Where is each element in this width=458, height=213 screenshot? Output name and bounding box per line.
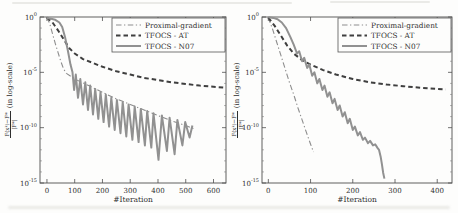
scan-artifact [12,2,292,4]
x-tick-label: 0 [266,187,270,195]
scan-artifact [8,206,450,209]
x-axis-label: #Iteration [337,195,377,204]
legend-label: TFOCS - N07 [145,42,195,51]
y-tick-label: 10-15 [242,177,259,188]
x-tick-label: 200 [96,187,109,195]
legend-label: TFOCS - N07 [371,42,421,51]
x-tick-label: 300 [388,187,401,195]
right-chart: 010020030040010010-510-1010-15#Iteration… [229,0,458,213]
legend-label: TFOCS - AT [145,31,188,40]
x-axis-label: #Iteration [113,195,153,204]
x-tick-label: 100 [68,187,81,195]
y-tick-label: 10-10 [20,122,37,133]
y-tick-label: 10-10 [242,122,259,133]
x-tick-label: 400 [151,187,164,195]
figure: F(xᵏ)−F*|F*|(in log-scale) 0100200300400… [0,0,458,213]
x-tick-label: 0 [45,187,49,195]
left-chart: 010020030040050060010010-510-1010-15#Ite… [0,0,229,213]
y-tick-label: 10-5 [23,66,37,77]
legend-label: TFOCS - AT [371,31,414,40]
x-tick-label: 100 [304,187,317,195]
scan-artifact [330,1,430,3]
x-tick-label: 200 [346,187,359,195]
y-tick-label: 100 [247,11,259,22]
left-plot-panel: F(xᵏ)−F*|F*|(in log-scale) 0100200300400… [0,0,229,213]
x-tick-label: 600 [207,187,220,195]
x-tick-label: 500 [179,187,192,195]
y-tick-label: 10-5 [245,66,259,77]
legend-label: Proximal-gradient [145,21,212,30]
x-tick-label: 400 [431,187,444,195]
right-plot-panel: F(xᵏ)−F*|F*|(in log-scale) 0100200300400… [229,0,458,213]
x-tick-label: 300 [124,187,137,195]
y-tick-label: 10-15 [20,177,37,188]
legend-label: Proximal-gradient [371,21,438,30]
y-tick-label: 100 [25,11,37,22]
